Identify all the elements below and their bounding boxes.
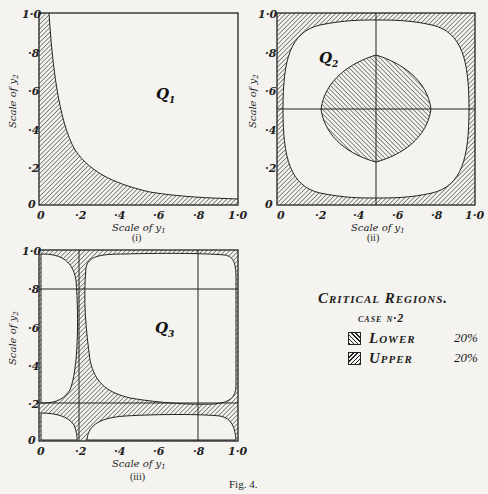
x-ticks-i: 0 ·2 ·4 ·6 ·8 1·0	[37, 209, 247, 222]
svg-text:·8: ·8	[193, 209, 205, 222]
svg-text:1·0: 1·0	[465, 209, 484, 222]
clear-region-upper-left	[41, 254, 78, 403]
figure-caption: Fig. 4.	[229, 478, 257, 490]
svg-text:·4: ·4	[28, 360, 39, 373]
legend-label-lower: Lower	[369, 330, 454, 347]
svg-text:·6: ·6	[153, 209, 165, 222]
svg-text:·8: ·8	[28, 47, 40, 60]
svg-text:1·0: 1·0	[22, 8, 41, 21]
panel-sublabel-iii: (iii)	[130, 471, 145, 483]
lower-region-i	[39, 13, 238, 205]
panel-ii: Q2 1·0 ·8 ·6 ·4 ·2 0 0 ·2 ·4 ·6 ·8 1·0 S…	[247, 8, 484, 244]
panel-sublabel-ii: (ii)	[367, 232, 379, 244]
y-axis-label-iii: Scale of y2	[7, 311, 20, 365]
svg-text:·8: ·8	[431, 209, 443, 222]
svg-text:·6: ·6	[28, 85, 40, 98]
svg-text:·6: ·6	[392, 209, 404, 222]
region-label-q2: Q2	[319, 49, 338, 69]
panel-sublabel-i: (i)	[132, 232, 141, 244]
x-axis-label-iii: Scale of y1	[112, 458, 166, 471]
svg-text:·2: ·2	[28, 398, 40, 411]
svg-text:·4: ·4	[114, 209, 125, 222]
svg-text:·4: ·4	[28, 124, 39, 137]
y-ticks-ii: 1·0 ·8 ·6 ·4 ·2 0	[258, 8, 277, 211]
svg-text:0: 0	[28, 434, 36, 447]
svg-text:·2: ·2	[75, 445, 87, 458]
svg-text:·2: ·2	[265, 162, 277, 175]
y-axis-label-i: Scale of y2	[7, 74, 20, 128]
x-ticks-ii: 0 ·2 ·4 ·6 ·8 1·0	[277, 209, 484, 222]
legend-value-lower: 20%	[454, 330, 478, 346]
svg-text:1·0: 1·0	[228, 445, 247, 458]
svg-text:·6: ·6	[265, 85, 277, 98]
figure-canvas: Q1 1·0 ·8 ·6 ·4 ·2 0 0 ·2 ·4 ·6 ·8 1·0 S…	[0, 0, 488, 494]
svg-text:0: 0	[265, 198, 273, 211]
svg-text:·8: ·8	[193, 445, 205, 458]
svg-text:0: 0	[277, 209, 285, 222]
legend-title: Critical Regions.	[318, 290, 488, 307]
svg-text:·2: ·2	[75, 209, 87, 222]
legend-label-upper: Upper	[369, 350, 454, 367]
svg-text:·4: ·4	[114, 445, 125, 458]
legend-value-upper: 20%	[454, 350, 478, 366]
legend-item-lower: Lower 20%	[348, 329, 488, 347]
svg-text:1·0: 1·0	[258, 8, 277, 21]
clear-region-lower-right	[87, 415, 236, 441]
region-label-q1: Q1	[156, 85, 175, 105]
svg-text:·2: ·2	[28, 162, 40, 175]
svg-text:0: 0	[28, 198, 36, 211]
svg-text:1·0: 1·0	[22, 245, 41, 258]
svg-text:1·0: 1·0	[228, 209, 247, 222]
legend-item-upper: Upper 20%	[348, 349, 488, 367]
svg-text:·4: ·4	[353, 209, 364, 222]
legend-case: case n·2	[358, 311, 488, 326]
panel-iii: Q3 1·0 ·8 ·6 ·4 ·2 0 0 ·2 ·4 ·6 ·8 1·0 S…	[7, 245, 247, 483]
svg-text:0: 0	[37, 445, 45, 458]
svg-text:·6: ·6	[153, 445, 165, 458]
svg-text:·8: ·8	[265, 47, 277, 60]
legend: Critical Regions. case n·2 Lower 20% Upp…	[318, 290, 488, 367]
hatch-forward-icon	[348, 332, 361, 345]
panel-i: Q1 1·0 ·8 ·6 ·4 ·2 0 0 ·2 ·4 ·6 ·8 1·0 S…	[7, 8, 247, 244]
svg-text:·2: ·2	[315, 209, 327, 222]
svg-text:·4: ·4	[265, 124, 276, 137]
hatch-back-icon	[348, 352, 361, 365]
y-axis-label-ii: Scale of y2	[247, 74, 260, 128]
svg-text:·6: ·6	[28, 322, 40, 335]
svg-text:·8: ·8	[28, 283, 40, 296]
x-ticks-iii: 0 ·2 ·4 ·6 ·8 1·0	[37, 445, 247, 458]
svg-text:0: 0	[37, 209, 45, 222]
